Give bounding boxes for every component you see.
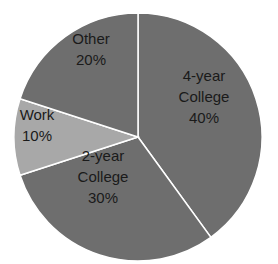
slice-4-year-college-label: 4-year: [183, 67, 226, 84]
slice-2-year-college-label: 2-year: [82, 147, 125, 164]
slice-2-year-college-label: 30%: [88, 189, 118, 206]
slice-work-label: 10%: [22, 127, 52, 144]
slice-4-year-college-label: 40%: [189, 109, 219, 126]
slice-2-year-college-label: College: [78, 168, 129, 185]
slice-work-label: Work: [20, 106, 55, 123]
slice-other-label: Other: [72, 30, 110, 47]
slice-4-year-college-label: College: [179, 88, 230, 105]
slice-other-label: 20%: [76, 51, 106, 68]
pie-chart: 4-yearCollege40%2-yearCollege30%Work10%O…: [0, 0, 278, 264]
